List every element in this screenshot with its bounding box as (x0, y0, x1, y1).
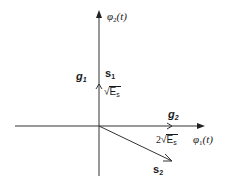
phi2-axis-arrowhead-icon (96, 10, 102, 18)
phi1-axis-label: φ1(t) (193, 134, 213, 147)
s1-magnitude-label: √Es (104, 86, 121, 98)
phi1-axis-arrowhead-icon (197, 123, 205, 129)
phi2-axis-label: φ2(t) (107, 11, 127, 24)
signal-space-diagram: φ2(t) g1 s1 √Es g2 2√Es φ1(t) s2 (0, 0, 229, 185)
g2-label: g2 (168, 109, 179, 121)
s1-label: s1 (105, 68, 115, 80)
g2-magnitude-label: 2√Es (156, 134, 178, 146)
s2-label: s2 (153, 164, 163, 176)
g1-label: g1 (76, 71, 87, 83)
